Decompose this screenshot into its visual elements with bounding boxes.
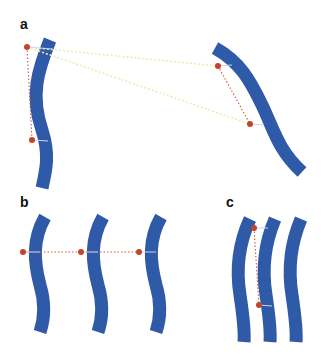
marker-point	[251, 225, 257, 231]
marker-point	[24, 44, 30, 50]
panel-b	[20, 217, 161, 332]
marker-point	[256, 302, 262, 308]
strand	[36, 40, 50, 188]
strand	[93, 217, 103, 332]
panel-a	[24, 40, 302, 188]
strand	[238, 219, 250, 342]
strand	[290, 219, 301, 342]
panel-label-a: a	[20, 17, 28, 31]
strand	[264, 219, 275, 342]
panel-c	[238, 219, 301, 342]
marker-point	[78, 249, 84, 255]
strand	[215, 48, 302, 172]
marker-point	[215, 63, 221, 69]
marker-point	[247, 121, 253, 127]
marker-point	[20, 249, 26, 255]
panel-label-b: b	[20, 195, 29, 209]
strand	[151, 217, 161, 332]
figure: a b c	[0, 0, 328, 358]
marker-point	[29, 137, 35, 143]
diagram-canvas	[0, 0, 328, 358]
panel-label-c: c	[226, 195, 234, 209]
marker-point	[136, 249, 142, 255]
strand	[35, 217, 45, 332]
cross-link-line	[27, 47, 218, 66]
